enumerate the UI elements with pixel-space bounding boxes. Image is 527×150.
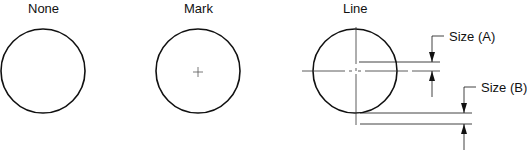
- dimension-size-b: [360, 87, 476, 150]
- center-mark-icon: [193, 67, 203, 77]
- dimension-size-a: [359, 36, 444, 97]
- circle-none: [1, 29, 85, 113]
